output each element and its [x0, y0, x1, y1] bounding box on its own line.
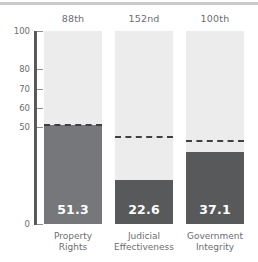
y-axis-label-100: 100	[0, 27, 30, 35]
y-axis-label-80: 80	[0, 65, 30, 73]
y-axis-label-70: 70	[0, 85, 30, 93]
y-tick-0	[37, 224, 43, 225]
y-tick-100	[37, 31, 43, 32]
plot-area: 100 80 70 60 50 0 51.3 22.6 37.1	[0, 0, 258, 262]
y-axis-spine	[34, 31, 37, 225]
bar-chart: 88th 152nd 100th 100 80 70 60 50 0 51.3 …	[0, 0, 258, 262]
y-axis-label-50: 50	[0, 123, 30, 131]
category-label-judicial-effectiveness: Judicial Effectiveness	[109, 231, 179, 253]
y-tick-80	[37, 69, 43, 70]
y-axis-label-0: 0	[0, 220, 30, 228]
y-tick-60	[37, 108, 43, 109]
bar-value-property-rights: 51.3	[44, 203, 102, 216]
reference-line-property-rights	[44, 124, 102, 126]
reference-line-judicial-effectiveness	[115, 136, 173, 138]
bar-value-government-integrity: 37.1	[186, 203, 244, 216]
reference-line-government-integrity	[186, 140, 244, 142]
category-label-government-integrity: Government Integrity	[180, 231, 250, 253]
y-axis-label-60: 60	[0, 104, 30, 112]
category-label-property-rights: Property Rights	[38, 231, 108, 253]
y-tick-50	[37, 127, 43, 128]
y-tick-70	[37, 89, 43, 90]
bar-value-judicial-effectiveness: 22.6	[115, 203, 173, 216]
